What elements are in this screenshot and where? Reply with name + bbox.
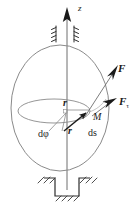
upper-bearing-right [74, 26, 79, 42]
force-vector-arrowhead [107, 65, 118, 80]
label-radius-vector: r [68, 126, 72, 136]
sphere-outline [11, 45, 109, 171]
mechanics-figure: z F Fτ M r r dφ ds [0, 0, 137, 210]
label-force-F: F [118, 63, 125, 74]
label-point-M: M [93, 112, 101, 122]
label-force-tangential: Fτ [119, 96, 129, 110]
figure-canvas [0, 0, 137, 210]
label-radius-top: r [63, 98, 67, 108]
label-ds: ds [88, 128, 97, 138]
bearing-hatch-bottom [56, 196, 79, 201]
angle-wedge [49, 110, 67, 131]
label-force-tangential-subscript: τ [126, 102, 129, 109]
upper-bearing-left [52, 26, 57, 42]
upper-bearing [52, 26, 79, 42]
label-z-axis: z [78, 4, 82, 13]
label-d-phi: dφ [38, 129, 49, 139]
